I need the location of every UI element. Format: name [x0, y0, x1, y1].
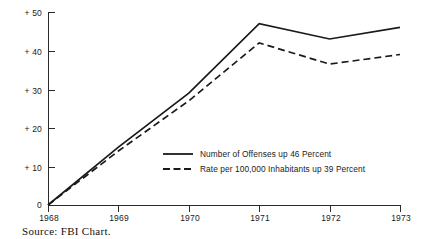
x-tick-label-1968: 1968 — [29, 213, 69, 223]
legend-dashed-line-icon — [163, 164, 193, 174]
y-tick-marks — [49, 13, 55, 168]
y-tick-label-50: + 50 — [4, 8, 42, 18]
series-line-number-of-offenses — [48, 24, 400, 205]
y-tick-label-40: + 40 — [4, 47, 42, 57]
series-line-rate-per-100000-inhabitants — [48, 43, 400, 205]
chart-plot-area — [0, 0, 424, 239]
source-note: Source: FBI Chart. — [22, 225, 111, 237]
y-tick-label-0: 0 — [4, 200, 42, 210]
x-tick-label-1971: 1971 — [240, 213, 280, 223]
chart-legend: Number of Offenses up 46 Percent Rate pe… — [163, 146, 395, 176]
legend-entry-number-of-offenses: Number of Offenses up 46 Percent — [163, 146, 395, 161]
y-tick-label-20: + 20 — [4, 124, 42, 134]
x-tick-label-1969: 1969 — [99, 213, 139, 223]
legend-entry-rate-per-100000-inhabitants: Rate per 100,000 Inhabitants up 39 Perce… — [163, 161, 395, 176]
y-tick-label-10: + 10 — [4, 163, 42, 173]
x-tick-label-1973: 1973 — [381, 213, 421, 223]
x-tick-marks — [49, 206, 401, 212]
legend-solid-line-icon — [163, 149, 193, 159]
x-tick-label-1970: 1970 — [170, 213, 210, 223]
x-tick-label-1972: 1972 — [311, 213, 351, 223]
legend-label-number-of-offenses: Number of Offenses up 46 Percent — [200, 149, 331, 159]
percent-change-line-chart: + 50 + 40 + 30 + 20 + 10 0 1968 1969 197… — [0, 0, 424, 239]
legend-label-rate-per-100000-inhabitants: Rate per 100,000 Inhabitants up 39 Perce… — [200, 164, 365, 174]
y-tick-label-30: + 30 — [4, 86, 42, 96]
